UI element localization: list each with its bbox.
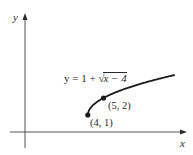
point-5-2 <box>101 95 106 100</box>
equation-radicand: x − 4 <box>103 72 126 84</box>
point-label-4-1: (4, 1) <box>90 118 113 129</box>
y-axis <box>23 13 28 148</box>
equation-label: y = 1 + √x − 4 <box>64 72 127 84</box>
x-axis-label: x <box>180 138 185 149</box>
y-axis-arrow-icon <box>23 13 28 20</box>
equation-prefix: y = 1 + <box>64 72 98 84</box>
x-axis-arrow-icon <box>180 130 187 135</box>
point-label-5-2: (5, 2) <box>108 101 131 112</box>
x-axis <box>10 130 187 135</box>
y-axis-label: y <box>13 12 18 23</box>
